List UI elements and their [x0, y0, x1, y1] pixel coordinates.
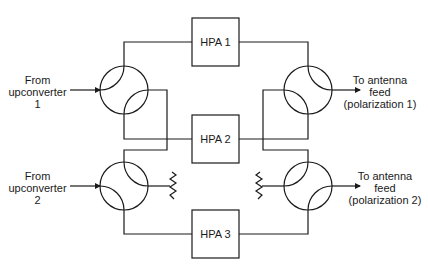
wire-lh1-bottom — [124, 114, 192, 139]
redundant-hpa-diagram: HPA 1 HPA 2 HPA 3 — [0, 0, 428, 272]
wire-lh2-hpa2 — [124, 139, 167, 162]
output-2-label: To antenna feed (polarization 2) — [340, 170, 428, 206]
left-hybrid-2 — [100, 162, 148, 210]
wire-hpa2-rh — [239, 114, 308, 139]
output-1-line1: To antenna — [335, 74, 425, 86]
right-hybrid-1 — [284, 66, 332, 114]
output-2-line3: (polarization 2) — [340, 194, 428, 206]
hpa1-label: HPA 1 — [200, 36, 230, 48]
input-1-line1: From — [5, 74, 70, 86]
hpa3-label: HPA 3 — [200, 228, 230, 240]
wire-hpa1-rh1 — [239, 42, 308, 66]
wire-lh1-hpa2 — [148, 90, 167, 139]
resistor-load-icon-right — [256, 172, 262, 199]
resistor-load-icon-left — [170, 172, 176, 199]
input-2-line3: 2 — [5, 194, 70, 206]
input-2-label: From upconverter 2 — [5, 170, 70, 206]
wire-lh2-hpa3 — [124, 210, 192, 234]
wire-lh1-hpa1 — [124, 42, 192, 66]
input-1-line3: 1 — [5, 98, 70, 110]
input-2-line1: From — [5, 170, 70, 182]
output-2-line2: feed — [340, 182, 428, 194]
input-1-line2: upconverter — [5, 86, 70, 98]
right-hybrid-2 — [284, 162, 332, 210]
output-1-line3: (polarization 1) — [335, 98, 425, 110]
output-1-line2: feed — [335, 86, 425, 98]
wire-rh1-left — [263, 90, 308, 162]
wire-hpa3-rh2 — [239, 210, 308, 234]
output-2-line1: To antenna — [340, 170, 428, 182]
left-hybrid-1 — [100, 66, 148, 114]
input-2-line2: upconverter — [5, 182, 70, 194]
input-1-label: From upconverter 1 — [5, 74, 70, 110]
hpa2-label: HPA 2 — [200, 133, 230, 145]
output-1-label: To antenna feed (polarization 1) — [335, 74, 425, 110]
